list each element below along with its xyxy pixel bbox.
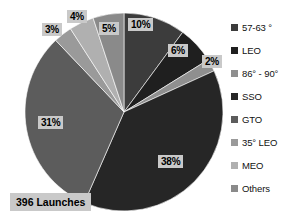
legend-swatch-icon <box>231 70 238 77</box>
legend-item-label: MEO <box>242 160 263 171</box>
legend-item[interactable]: 35° LEO <box>231 131 307 154</box>
legend-item-label: SSO <box>242 91 262 102</box>
legend-swatch-icon <box>231 185 238 192</box>
data-label-35-leo: 3% <box>42 23 62 36</box>
legend-swatch-icon <box>231 93 238 100</box>
legend-swatch-icon <box>231 139 238 146</box>
legend-item-label: 86° - 90° <box>242 68 278 79</box>
legend-item-label: Others <box>242 183 270 194</box>
data-label-leo: 6% <box>168 44 188 57</box>
data-label-86-90: 2% <box>202 55 222 68</box>
legend-item[interactable]: LEO <box>231 39 307 62</box>
pie-slice-group <box>25 13 223 211</box>
legend-swatch-icon <box>231 47 238 54</box>
legend-item[interactable]: 57-63 ° <box>231 16 307 39</box>
legend-item[interactable]: Others <box>231 177 307 200</box>
chart-legend: 57-63 °LEO86° - 90°SSOGTO35° LEOMEOOther… <box>231 16 307 200</box>
data-label-others: 5% <box>99 22 119 35</box>
legend-item[interactable]: GTO <box>231 108 307 131</box>
legend-swatch-icon <box>231 24 238 31</box>
legend-item[interactable]: SSO <box>231 85 307 108</box>
legend-swatch-icon <box>231 162 238 169</box>
data-label-meo: 4% <box>67 10 87 23</box>
data-label-gto: 31% <box>38 116 63 129</box>
total-launches-caption: 396 Launches <box>10 193 91 211</box>
legend-item-label: GTO <box>242 114 262 125</box>
pie-chart-figure: 10% 6% 2% 38% 31% 3% 4% 5% 396 Launches … <box>0 0 307 224</box>
legend-item-label: 57-63 ° <box>242 22 272 33</box>
legend-item-label: 35° LEO <box>242 137 277 148</box>
legend-swatch-icon <box>231 116 238 123</box>
pie-svg <box>18 12 230 212</box>
legend-item[interactable]: MEO <box>231 154 307 177</box>
pie-plot-area <box>18 12 230 212</box>
legend-item-label: LEO <box>242 45 261 56</box>
data-label-sso: 38% <box>158 155 183 168</box>
legend-item[interactable]: 86° - 90° <box>231 62 307 85</box>
data-label-57-63: 10% <box>128 18 153 31</box>
